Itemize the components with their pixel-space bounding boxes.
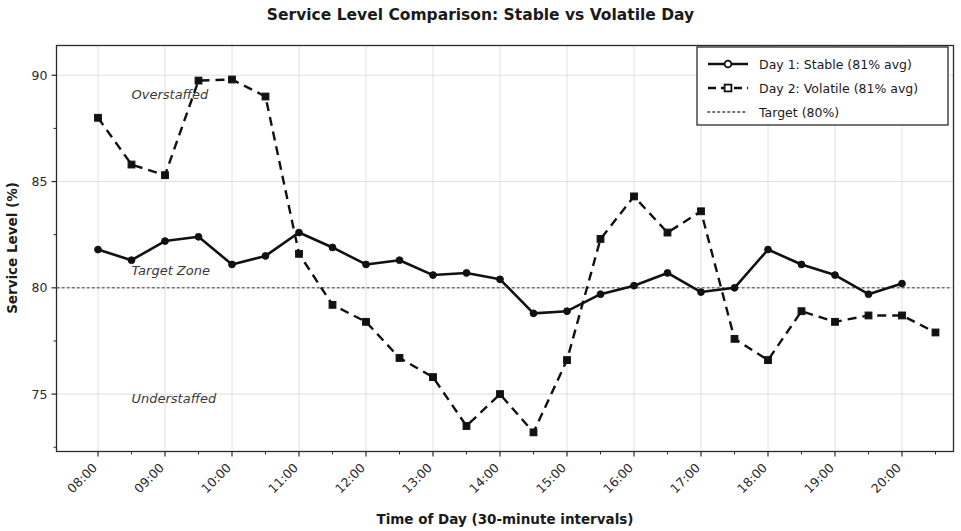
data-point-marker — [564, 308, 571, 315]
y-tick-label: 80 — [32, 280, 48, 295]
legend-marker-circle — [725, 61, 732, 68]
data-point-marker — [95, 114, 102, 121]
x-axis-label: Time of Day (30-minute intervals) — [376, 511, 633, 527]
data-point-marker — [497, 391, 504, 398]
data-point-marker — [798, 261, 805, 268]
data-point-marker — [262, 253, 269, 260]
data-point-marker — [162, 172, 169, 179]
data-point-marker — [229, 76, 236, 83]
data-point-marker — [899, 312, 906, 319]
data-point-marker — [832, 318, 839, 325]
data-point-marker — [564, 357, 571, 364]
service-level-line-chart: Service Level Comparison: Stable vs Vola… — [0, 0, 961, 531]
y-axis-label: Service Level (%) — [4, 182, 20, 314]
data-point-marker — [664, 270, 671, 277]
data-point-marker — [597, 236, 604, 243]
legend-marker-square — [725, 85, 732, 92]
data-point-marker — [363, 318, 370, 325]
data-point-marker — [664, 229, 671, 236]
data-point-marker — [396, 257, 403, 264]
data-point-marker — [698, 208, 705, 215]
data-point-marker — [430, 374, 437, 381]
data-point-marker — [798, 308, 805, 315]
data-point-marker — [95, 246, 102, 253]
annotation-understaffed: Understaffed — [132, 391, 218, 406]
chart-legend[interactable]: Day 1: Stable (81% avg)Day 2: Volatile (… — [697, 47, 948, 125]
data-point-marker — [128, 161, 135, 168]
annotation-target-zone: Target Zone — [132, 263, 210, 278]
y-tick-label: 85 — [32, 174, 48, 189]
chart-title: Service Level Comparison: Stable vs Vola… — [267, 6, 694, 24]
data-point-marker — [932, 329, 939, 336]
data-point-marker — [865, 291, 872, 298]
data-point-marker — [363, 261, 370, 268]
data-point-marker — [229, 261, 236, 268]
data-point-marker — [832, 272, 839, 279]
data-point-marker — [865, 312, 872, 319]
y-tick-label: 90 — [32, 68, 48, 83]
data-point-marker — [899, 280, 906, 287]
data-point-marker — [195, 233, 202, 240]
y-tick-label: 75 — [32, 387, 48, 402]
data-point-marker — [731, 335, 738, 342]
data-point-marker — [195, 77, 202, 84]
data-point-marker — [765, 357, 772, 364]
data-point-marker — [296, 229, 303, 236]
annotation-overstaffed: Overstaffed — [132, 87, 209, 102]
data-point-marker — [631, 193, 638, 200]
data-point-marker — [463, 270, 470, 277]
data-point-marker — [296, 250, 303, 257]
data-point-marker — [765, 246, 772, 253]
data-point-marker — [262, 93, 269, 100]
data-point-marker — [530, 310, 537, 317]
data-point-marker — [497, 276, 504, 283]
data-point-marker — [597, 291, 604, 298]
data-point-marker — [698, 289, 705, 296]
data-point-marker — [329, 301, 336, 308]
data-point-marker — [329, 244, 336, 251]
data-point-marker — [530, 429, 537, 436]
legend-label: Target (80%) — [758, 105, 839, 120]
data-point-marker — [631, 282, 638, 289]
chart-figure: Service Level Comparison: Stable vs Vola… — [0, 0, 961, 531]
data-point-marker — [162, 238, 169, 245]
data-point-marker — [463, 423, 470, 430]
legend-label: Day 2: Volatile (81% avg) — [759, 81, 918, 96]
data-point-marker — [731, 284, 738, 291]
data-point-marker — [396, 355, 403, 362]
data-point-marker — [430, 272, 437, 279]
legend-label: Day 1: Stable (81% avg) — [759, 57, 912, 72]
